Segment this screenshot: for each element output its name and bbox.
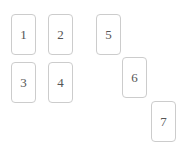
card-label: 1: [20, 28, 27, 41]
card-board: 1234567: [0, 0, 188, 147]
card-7[interactable]: 7: [151, 101, 176, 142]
card-label: 7: [160, 115, 167, 128]
card-label: 3: [20, 76, 27, 89]
card-2[interactable]: 2: [48, 14, 73, 55]
card-label: 2: [57, 28, 64, 41]
card-3[interactable]: 3: [11, 62, 36, 103]
card-label: 6: [131, 71, 138, 84]
card-label: 5: [105, 28, 112, 41]
card-5[interactable]: 5: [96, 14, 121, 55]
card-6[interactable]: 6: [122, 57, 147, 98]
card-4[interactable]: 4: [48, 62, 73, 103]
card-label: 4: [57, 76, 64, 89]
card-1[interactable]: 1: [11, 14, 36, 55]
